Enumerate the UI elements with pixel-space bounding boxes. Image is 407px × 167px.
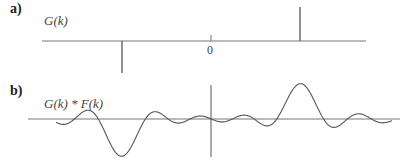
figure-canvas (0, 0, 407, 167)
convolution-curve (56, 84, 392, 157)
